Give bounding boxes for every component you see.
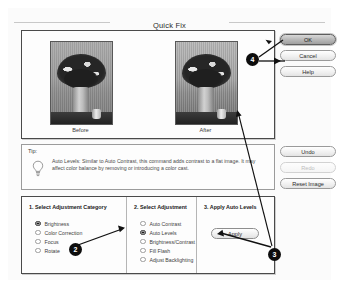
- radio-option-brightness-contrast[interactable]: Brightness/Contrast: [140, 237, 195, 246]
- radio-label-focus: Focus: [45, 239, 59, 245]
- dialog-title-bar: Quick Fix: [8, 14, 331, 28]
- radio-label-brightness-contrast: Brightness/Contrast: [150, 239, 196, 245]
- radio-icon-rotate[interactable]: [35, 248, 41, 254]
- cancel-button[interactable]: Cancel: [280, 50, 336, 61]
- after-image-cup: [217, 109, 226, 119]
- radio-option-auto-contrast[interactable]: Auto Contrast: [140, 219, 195, 228]
- before-preview: Before: [50, 41, 111, 123]
- before-image-cup: [92, 109, 101, 119]
- radio-icon-auto-contrast[interactable]: [140, 221, 146, 227]
- after-image: [175, 41, 238, 125]
- radio-icon-brightness[interactable]: [35, 221, 41, 227]
- step-2-heading: 2. Select Adjustment: [134, 204, 187, 210]
- ok-button[interactable]: OK: [280, 34, 336, 45]
- radio-label-auto-levels: Auto Levels: [150, 230, 177, 236]
- radio-label-fill-flash: Fill Flash: [150, 248, 171, 254]
- help-button[interactable]: Help: [280, 66, 336, 77]
- radio-option-color-correction[interactable]: Color Correction: [35, 228, 82, 237]
- before-image-vase: [73, 87, 89, 114]
- callout-badge-4: 4: [246, 53, 259, 66]
- radio-label-rotate: Rotate: [45, 248, 60, 254]
- after-image-vase: [198, 87, 214, 114]
- radio-icon-fill-flash[interactable]: [140, 248, 146, 254]
- after-image-table: [176, 112, 237, 124]
- radio-label-color-correction: Color Correction: [45, 230, 83, 236]
- radio-option-fill-flash[interactable]: Fill Flash: [140, 246, 195, 255]
- before-label: Before: [50, 127, 111, 133]
- step-3-heading: 3. Apply Auto Levels: [204, 204, 257, 210]
- radio-icon-focus[interactable]: [35, 239, 41, 245]
- title-rule-left: [14, 22, 110, 23]
- after-label: After: [175, 127, 236, 133]
- step-3-apply-column: 3. Apply Auto Levels Apply: [196, 197, 274, 273]
- radio-label-brightness: Brightness: [45, 221, 70, 227]
- radio-icon-adjust-backlighting[interactable]: [140, 257, 146, 263]
- after-image-flowers-shadow: [189, 69, 223, 89]
- apply-button[interactable]: Apply: [211, 228, 259, 239]
- step-2-adjustment-column: 2. Select Adjustment Auto Contrast Auto …: [126, 197, 196, 273]
- tip-panel: Tip: Auto Levels: Similar to Auto Contra…: [21, 144, 275, 190]
- reset-image-button[interactable]: Reset Image: [280, 178, 336, 189]
- before-image: [50, 41, 113, 125]
- tip-label: Tip:: [28, 148, 37, 154]
- radio-option-auto-levels[interactable]: Auto Levels: [140, 228, 195, 237]
- step-1-category-column: 1. Select Adjustment Category Brightness…: [22, 197, 126, 273]
- radio-label-adjust-backlighting: Adjust Backlighting: [150, 257, 194, 263]
- page-title: Quick Fix: [145, 21, 194, 30]
- adjustment-radio-group: Auto Contrast Auto Levels Brightness/Con…: [140, 219, 195, 264]
- radio-option-brightness[interactable]: Brightness: [35, 219, 82, 228]
- preview-panel: Before After: [21, 30, 275, 139]
- action-button-group: OK Cancel Help: [280, 34, 338, 82]
- quick-fix-dialog: Quick Fix Before After: [8, 8, 331, 280]
- history-button-group: Undo Redo Reset Image: [280, 146, 338, 194]
- radio-label-auto-contrast: Auto Contrast: [150, 221, 182, 227]
- step-1-heading: 1. Select Adjustment Category: [29, 204, 107, 210]
- undo-button[interactable]: Undo: [280, 146, 336, 157]
- callout-badge-3: 3: [268, 248, 281, 261]
- redo-button: Redo: [280, 162, 336, 173]
- steps-panel: 1. Select Adjustment Category Brightness…: [21, 196, 275, 274]
- title-rule-right: [229, 22, 325, 23]
- callout-badge-2: 2: [69, 243, 82, 256]
- radio-icon-brightness-contrast[interactable]: [140, 239, 146, 245]
- before-image-flowers-shadow: [64, 69, 98, 89]
- tip-text: Auto Levels: Similar to Auto Contrast, t…: [52, 158, 266, 173]
- radio-option-adjust-backlighting[interactable]: Adjust Backlighting: [140, 255, 195, 264]
- before-image-table: [51, 112, 112, 124]
- after-preview: After: [175, 41, 236, 123]
- radio-icon-auto-levels[interactable]: [140, 230, 146, 236]
- radio-icon-color-correction[interactable]: [35, 230, 41, 236]
- lightbulb-icon: [31, 160, 45, 178]
